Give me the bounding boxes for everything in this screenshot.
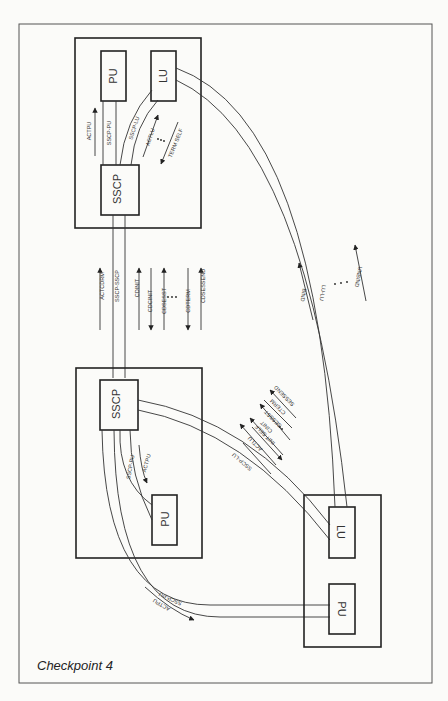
top-sscp-lu-label: SSCP-LU: [127, 116, 140, 141]
cdsessend-label: CDSESSEND: [200, 269, 206, 303]
left-actpu-label: ACTPU: [141, 453, 152, 473]
left-sscp-pu-label: SSCP-PU: [125, 454, 135, 479]
actlu-label: ACTLU: [247, 436, 264, 453]
cdsesst-label: CDSESST: [161, 288, 167, 314]
cdterm-label: CDTERM: [185, 289, 191, 313]
cdinit-label: CDINIT: [134, 279, 140, 297]
cdcinit-label: CDCINIT: [147, 290, 153, 312]
top-sscp-pu-label: SSCP-PU: [106, 121, 112, 145]
lu-lu-label: LU-LU: [319, 285, 328, 302]
remote-sscp-lu-label: SSCP-LU: [231, 452, 253, 472]
remote-lu-label: LU: [335, 525, 347, 539]
caption: Checkpoint 4: [37, 658, 113, 673]
sscp-sscp-label: SSCP-SSCP: [114, 270, 120, 302]
bind-label: BIND: [299, 288, 307, 302]
remote-pu-label: PU: [336, 601, 348, 616]
top-pu-label: PU: [107, 68, 119, 83]
actcdrm-label: ACTCDRM: [99, 272, 105, 300]
top-lu-label: LU: [157, 69, 169, 83]
top-actlu-label: ACTLU: [144, 127, 155, 146]
left-pu-label: PU: [159, 511, 171, 526]
left-sscp-label: SSCP: [110, 389, 122, 419]
top-sscp-label: SSCP: [111, 174, 123, 204]
unbind-label: UNBIND: [354, 266, 364, 288]
top-term-self-label: TERM SELF: [167, 128, 184, 159]
top-actpu-label: ACTPU: [86, 122, 92, 141]
